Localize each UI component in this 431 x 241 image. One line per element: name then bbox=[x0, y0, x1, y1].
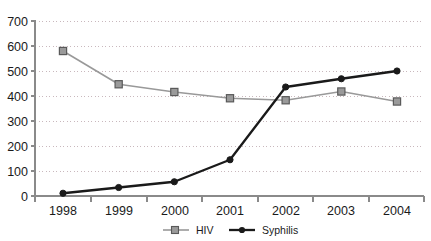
x-tick-label-2000: 2000 bbox=[161, 204, 189, 218]
datapoint-syphilis-1998 bbox=[60, 190, 66, 196]
datapoint-hiv-1998 bbox=[59, 47, 66, 54]
datapoint-hiv-2003 bbox=[338, 88, 345, 95]
x-tick-label-1999: 1999 bbox=[105, 204, 133, 218]
datapoint-hiv-2000 bbox=[171, 88, 178, 95]
datapoint-hiv-1999 bbox=[115, 81, 122, 88]
series-line-syphilis bbox=[63, 71, 397, 193]
x-tick-label-2003: 2003 bbox=[327, 204, 355, 218]
data-series-layer bbox=[59, 47, 400, 196]
x-tick-label-1998: 1998 bbox=[49, 204, 77, 218]
x-tick-label-2002: 2002 bbox=[272, 204, 300, 218]
y-tick-label-100: 100 bbox=[7, 165, 28, 179]
y-tick-label-500: 500 bbox=[7, 65, 28, 79]
y-tick-label-700: 700 bbox=[7, 15, 28, 29]
y-tick-label-200: 200 bbox=[7, 140, 28, 154]
x-tick-label-2001: 2001 bbox=[216, 204, 244, 218]
legend-marker-syphilis bbox=[239, 227, 245, 233]
y-axis: 700 600 500 400 300 200 100 0 bbox=[7, 15, 35, 204]
chart-canvas: 700 600 500 400 300 200 100 0 1998 1999 … bbox=[0, 0, 431, 241]
datapoint-syphilis-2002 bbox=[283, 84, 289, 90]
legend-label-syphilis: Syphilis bbox=[262, 224, 298, 236]
y-tick-label-300: 300 bbox=[7, 115, 28, 129]
legend-marker-hiv bbox=[172, 227, 179, 234]
y-tick-label-400: 400 bbox=[7, 90, 28, 104]
x-axis: 1998 1999 2000 2001 2002 2003 2004 bbox=[35, 196, 424, 218]
datapoint-syphilis-1999 bbox=[116, 184, 122, 190]
series-syphilis bbox=[60, 68, 400, 196]
series-line-hiv bbox=[63, 51, 397, 102]
line-chart: 700 600 500 400 300 200 100 0 1998 1999 … bbox=[0, 0, 431, 241]
datapoint-hiv-2004 bbox=[393, 98, 400, 105]
datapoint-syphilis-2001 bbox=[227, 157, 233, 163]
y-tick-label-600: 600 bbox=[7, 40, 28, 54]
datapoint-syphilis-2003 bbox=[338, 76, 344, 82]
x-tick-label-2004: 2004 bbox=[383, 204, 411, 218]
datapoint-syphilis-2000 bbox=[171, 179, 177, 185]
y-tick-label-0: 0 bbox=[21, 190, 28, 204]
legend: HIV Syphilis bbox=[163, 224, 298, 236]
legend-label-hiv: HIV bbox=[196, 224, 214, 236]
series-hiv bbox=[59, 47, 400, 105]
datapoint-hiv-2002 bbox=[282, 97, 289, 104]
datapoint-syphilis-2004 bbox=[394, 68, 400, 74]
datapoint-hiv-2001 bbox=[226, 95, 233, 102]
